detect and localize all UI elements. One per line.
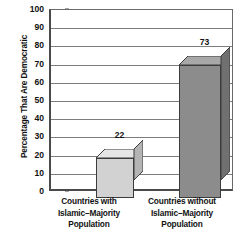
bar-value-label: 22 — [90, 130, 150, 140]
y-axis-tick-label: 100 — [20, 4, 44, 14]
bar-value-label: 73 — [175, 37, 235, 47]
y-axis-tick-label: 20 — [20, 150, 44, 160]
y-axis-tick-label: 10 — [20, 168, 44, 178]
x-axis-category-label-line: Population — [42, 219, 136, 231]
x-axis-category-label-line: Islamic–Majority — [42, 208, 136, 220]
x-axis-category-label-line: Population — [126, 219, 238, 231]
x-axis-category-labels: Countries withIslamic–MajorityPopulation… — [0, 196, 242, 239]
y-axis-tick-label: 30 — [20, 131, 44, 141]
y-axis-tick-label: 40 — [20, 113, 44, 123]
plot-area: 2273 — [49, 9, 233, 191]
bar — [179, 56, 221, 198]
bar-front-face — [96, 158, 134, 198]
bar-side-face — [220, 47, 230, 189]
x-axis-category-label-line: Islamic–Majority — [126, 208, 238, 220]
y-axis-tick-label: 80 — [20, 40, 44, 50]
x-axis-category-label-line: Countries without — [126, 196, 238, 208]
gridline — [51, 28, 232, 29]
y-axis-tick-label: 70 — [20, 59, 44, 69]
bar-side-face — [133, 140, 143, 189]
bar-front-face — [179, 65, 221, 198]
x-axis-category-label: Countries withIslamic–MajorityPopulation — [42, 196, 136, 231]
y-axis-tick-label: 60 — [20, 77, 44, 87]
x-axis-category-label: Countries withoutIslamic–MajorityPopulat… — [126, 196, 238, 231]
x-axis-category-label-line: Countries with — [42, 196, 136, 208]
y-axis-tick-label: 50 — [20, 95, 44, 105]
y-axis-tick-labels: 1009080706050403020100 — [20, 0, 44, 192]
bar-chart: Percentage That Are Democratic 100908070… — [0, 0, 242, 239]
y-axis-tick-label: 0 — [20, 186, 44, 196]
y-axis-tick-label: 90 — [20, 22, 44, 32]
bar — [96, 149, 134, 198]
